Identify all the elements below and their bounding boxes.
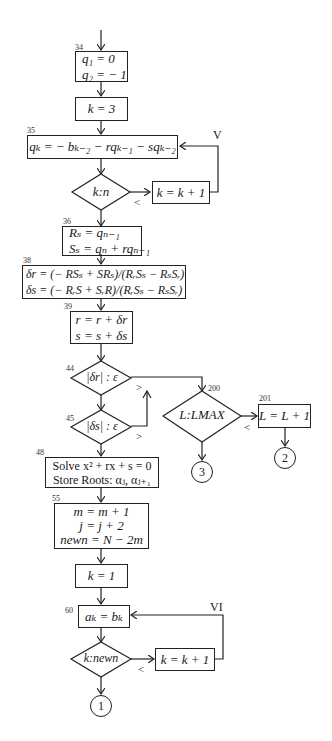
increment-k-box: k = k + 1: [152, 181, 210, 204]
set-k3-text: k = 3: [88, 101, 116, 117]
step-label-48: 48: [36, 448, 44, 457]
increment-k-text: k = k + 1: [157, 185, 206, 201]
increment-l-text: L = L + 1: [259, 408, 310, 424]
step-label-38: 38: [23, 256, 31, 265]
init-q2: q₂ = − 1: [82, 67, 127, 83]
delta-box: δr = (− RSₛ + SRₛ)/(RᵣSₛ − RₛSᵣ) δs = (−…: [22, 265, 186, 299]
init-q-box: q₁ = 0 q₂ = − 1: [75, 51, 128, 82]
update-m: m = m + 1: [74, 505, 130, 519]
rs-line-1: Rₛ = qₙ₋₁: [69, 225, 120, 241]
update-rs-box: r = r + δr s = s + δs: [70, 311, 133, 344]
flowchart-connectors: [0, 0, 332, 741]
increment-l-box: L = L + 1: [258, 404, 311, 428]
update-counters-box: m = m + 1 j = j + 2 newn = N − 2m: [54, 503, 149, 549]
step-label-45: 45: [66, 414, 74, 423]
connector-3: 3: [191, 461, 213, 483]
branch-less-200: <: [244, 421, 250, 433]
set-k1-box: k = 1: [75, 564, 128, 588]
branch-less: <: [134, 196, 140, 208]
update-j: j = j + 2: [79, 519, 123, 533]
decision-k-newn-text: k:newn: [76, 651, 126, 666]
connector-2-text: 2: [282, 451, 288, 466]
step-label-200: 200: [208, 384, 220, 393]
loop-label-v: V: [213, 128, 222, 143]
set-k3-box: k = 3: [75, 97, 128, 121]
q-recurrence-text: qₖ = − bₖ₋₂ − rqₖ₋₁ − sqₖ₋₂: [29, 139, 176, 155]
increment-k2-text: k = k + 1: [161, 652, 210, 668]
update-r: r = r + δr: [76, 312, 128, 328]
branch-greater-45: >: [136, 430, 142, 442]
decision-delta-r-text: |δr| : ε: [80, 370, 124, 385]
step-label-55: 55: [52, 494, 60, 503]
branch-greater-44: >: [136, 381, 142, 393]
update-s: s = s + δs: [76, 328, 128, 344]
decision-delta-s-text: |δs| : ε: [80, 419, 124, 434]
delta-s-line: δs = (− RᵣS + SᵣR)/(RᵣSₛ − RₛSᵣ): [26, 282, 182, 298]
copy-a-b-text: aₖ = bₖ: [85, 609, 123, 625]
copy-a-b-box: aₖ = bₖ: [78, 605, 130, 628]
loop-label-vi: VI: [210, 600, 223, 615]
delta-r-line: δr = (− RSₛ + SRₛ)/(RᵣSₛ − RₛSᵣ): [26, 266, 184, 282]
init-q1: q₁ = 0: [82, 51, 115, 67]
q-recurrence-box: qₖ = − bₖ₋₂ − rqₖ₋₁ − sqₖ₋₂: [27, 135, 178, 159]
rs-box: Rₛ = qₙ₋₁ Sₛ = qₙ + rqₙ₋₁: [62, 226, 142, 256]
rs-line-2: Sₛ = qₙ + rqₙ₋₁: [69, 241, 150, 257]
solve-quadratic-box: Solve x² + rx + s = 0 Store Roots: αⱼ, α…: [45, 457, 159, 488]
connector-3-text: 3: [199, 465, 205, 480]
connector-1: 1: [90, 695, 112, 717]
connector-1-text: 1: [98, 699, 104, 714]
step-label-60: 60: [65, 606, 73, 615]
step-label-201: 201: [259, 394, 271, 403]
branch-less-newn: <: [138, 663, 144, 675]
set-k1-text: k = 1: [88, 568, 116, 584]
connector-2: 2: [274, 447, 296, 469]
decision-k-n-text: k:n: [82, 184, 120, 200]
update-newn: newn = N − 2m: [60, 533, 143, 547]
step-label-35: 35: [27, 126, 35, 135]
store-roots-line: Store Roots: αⱼ, αⱼ₊₁: [53, 473, 151, 487]
decision-l-lmax-text: L:LMAX: [172, 407, 232, 423]
solve-line: Solve x² + rx + s = 0: [53, 459, 152, 473]
step-label-44: 44: [66, 364, 74, 373]
step-label-39: 39: [64, 302, 72, 311]
increment-k2-box: k = k + 1: [155, 648, 215, 671]
